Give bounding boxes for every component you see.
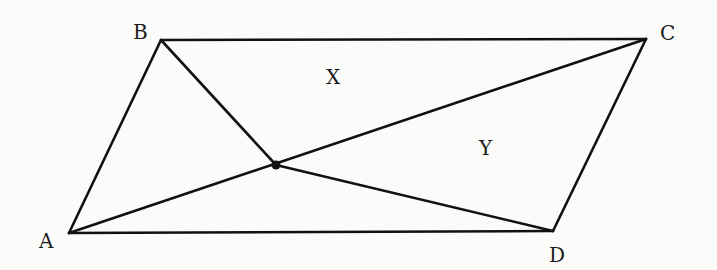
side-bc (161, 39, 646, 40)
vertex-label-c: C (660, 21, 675, 45)
interior-point (272, 161, 281, 170)
vertex-label-b: B (133, 20, 148, 44)
vertex-label-a: A (38, 229, 54, 253)
region-label-x: X (326, 65, 341, 89)
side-ab (69, 40, 161, 233)
side-da (69, 231, 553, 233)
segment-pd (276, 165, 553, 231)
geometry-diagram: B C A D X Y (0, 0, 717, 270)
vertex-label-d: D (549, 243, 565, 267)
side-cd (553, 39, 646, 231)
segment-bp (161, 40, 276, 165)
diagonal-ac (69, 39, 646, 233)
region-label-y: Y (478, 136, 493, 160)
